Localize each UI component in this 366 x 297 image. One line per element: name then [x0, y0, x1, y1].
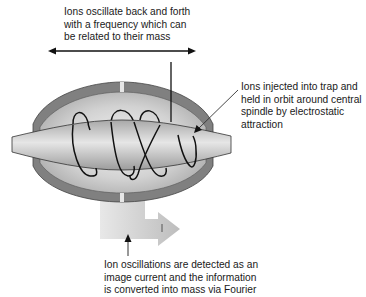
oscillation-label-line: Ions oscillate back and forth	[64, 6, 190, 19]
axial-double-arrow	[48, 48, 196, 55]
injection-label-line: held in orbit around central	[241, 94, 362, 107]
orbitrap-diagram: Ions oscillate back and forth with a fre…	[0, 0, 366, 297]
oscillation-label-line: with a frequency which can	[64, 19, 190, 32]
detection-label-line: is converted into mass via Fourier	[104, 284, 258, 297]
injection-label-line: Ions injected into trap and	[241, 81, 362, 94]
orbitrap-illustration	[0, 0, 366, 297]
detection-label-line: image current and the information	[104, 272, 258, 285]
injection-label-line: spindle by electrostatic	[241, 106, 362, 119]
oscillation-label: Ions oscillate back and forth with a fre…	[64, 6, 190, 44]
oscillation-label-line: be related to their mass	[64, 31, 190, 44]
injection-label-line: attraction	[241, 119, 362, 132]
detection-label-line: Ion oscillations are detected as an	[104, 259, 258, 272]
image-current-output-arrow	[100, 198, 180, 246]
injection-label: Ions injected into trap and held in orbi…	[241, 81, 362, 131]
detection-label: Ion oscillations are detected as an imag…	[104, 259, 258, 297]
